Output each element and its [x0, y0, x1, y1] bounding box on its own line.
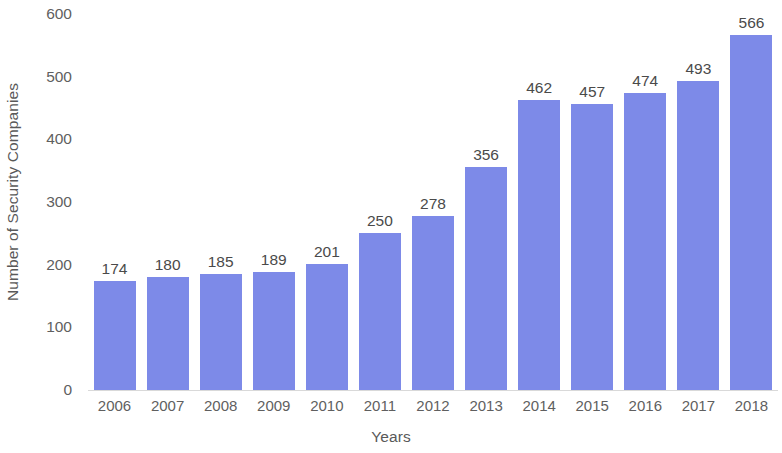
bar[interactable]: [147, 277, 189, 390]
y-axis-tick-label: 300: [26, 194, 72, 210]
y-axis-tick-label: 100: [26, 319, 72, 335]
x-axis-tick-label: 2018: [735, 397, 768, 415]
bar-value-label: 250: [367, 212, 393, 229]
y-axis-tick-labels: 0100200300400500600: [10, 0, 72, 453]
bar-group: 5662018: [725, 0, 778, 453]
y-axis-tick-label: 200: [26, 257, 72, 273]
bar-value-label: 566: [739, 14, 765, 31]
y-axis-tick-label: 500: [26, 69, 72, 85]
bar-group: 1802007: [141, 0, 194, 453]
x-axis-tick-label: 2015: [576, 397, 609, 415]
bar-value-label: 189: [261, 251, 287, 268]
bar-group: 1742006: [88, 0, 141, 453]
bar-value-label: 174: [102, 260, 128, 277]
bar[interactable]: [624, 93, 666, 390]
bar[interactable]: [253, 272, 295, 390]
x-axis-tick-label: 2017: [682, 397, 715, 415]
plot-area: 1742006180200718520081892009201201025020…: [88, 0, 778, 453]
bar-group: 2782012: [406, 0, 459, 453]
bar[interactable]: [518, 100, 560, 390]
x-axis-tick-label: 2006: [98, 397, 131, 415]
x-axis-tick-label: 2007: [151, 397, 184, 415]
x-axis-tick-label: 2010: [310, 397, 343, 415]
bar[interactable]: [465, 167, 507, 390]
y-axis-tick-label: 600: [26, 6, 72, 22]
bar[interactable]: [94, 281, 136, 390]
bar-value-label: 356: [473, 146, 499, 163]
bar-value-label: 278: [420, 195, 446, 212]
bar-value-label: 457: [579, 83, 605, 100]
bar-group: 3562013: [460, 0, 513, 453]
bar[interactable]: [306, 264, 348, 390]
x-axis-tick-label: 2011: [364, 397, 396, 415]
bar-value-label: 185: [208, 253, 234, 270]
bar-chart: Number of Security Companies 01002003004…: [0, 0, 782, 453]
bar-value-label: 201: [314, 243, 340, 260]
x-axis-tick-label: 2014: [522, 397, 555, 415]
bar-value-label: 180: [155, 256, 181, 273]
x-axis-title: Years: [0, 428, 782, 446]
bar-group: 2012010: [300, 0, 353, 453]
x-axis-tick-label: 2016: [629, 397, 662, 415]
bar-group: 2502011: [353, 0, 406, 453]
x-axis-tick-label: 2009: [257, 397, 290, 415]
x-axis-tick-label: 2008: [204, 397, 237, 415]
y-axis-tick-label: 0: [26, 382, 72, 398]
bar-group: 4622014: [513, 0, 566, 453]
bar-value-label: 493: [685, 60, 711, 77]
bar[interactable]: [677, 81, 719, 390]
bar[interactable]: [359, 233, 401, 390]
bar[interactable]: [200, 274, 242, 390]
x-axis-tick-label: 2013: [469, 397, 502, 415]
x-axis-tick-label: 2012: [416, 397, 449, 415]
bar[interactable]: [730, 35, 772, 390]
bar-group: 4742016: [619, 0, 672, 453]
bar[interactable]: [571, 104, 613, 390]
bar[interactable]: [412, 216, 454, 390]
bar-group: 4932017: [672, 0, 725, 453]
bar-group: 1892009: [247, 0, 300, 453]
y-axis-tick-label: 400: [26, 131, 72, 147]
bar-value-label: 474: [632, 72, 658, 89]
bar-group: 1852008: [194, 0, 247, 453]
bar-group: 4572015: [566, 0, 619, 453]
bar-value-label: 462: [526, 79, 552, 96]
